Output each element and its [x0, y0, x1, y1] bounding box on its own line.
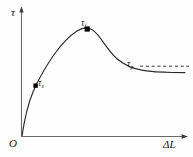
- annotation-tau-p: τp: [127, 60, 133, 70]
- stress-curve: [22, 28, 185, 136]
- annotation-tau-f-symbol: τ: [81, 18, 84, 28]
- x-axis-label-var: L: [169, 138, 175, 150]
- x-axis-label: ΔL: [163, 139, 176, 150]
- annotation-tau-p-symbol: τ: [127, 59, 130, 69]
- stress-displacement-figure: τ O ΔL τs τf τp: [0, 0, 193, 157]
- origin-label: O: [9, 138, 17, 149]
- annotation-tau-p-subscript: p: [131, 64, 134, 70]
- y-axis-label: τ: [11, 7, 15, 18]
- annotation-tau-s-symbol: τ: [38, 78, 41, 88]
- x-axis-arrowhead: [182, 134, 188, 139]
- annotation-tau-f-subscript: f: [85, 23, 87, 29]
- annotation-tau-s: τs: [38, 79, 44, 89]
- y-axis-arrowhead: [19, 7, 23, 13]
- annotation-tau-s-subscript: s: [42, 83, 44, 89]
- annotation-tau-f: τf: [81, 19, 86, 29]
- plot-canvas: [0, 0, 193, 157]
